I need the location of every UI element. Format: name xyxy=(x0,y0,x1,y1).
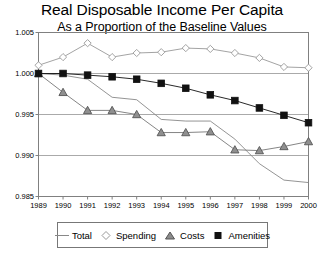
data-point xyxy=(305,119,312,126)
data-point xyxy=(207,45,214,52)
x-axis-tick-label: 1996 xyxy=(197,201,223,210)
data-point xyxy=(256,105,263,112)
data-point xyxy=(59,88,67,95)
plot-frame xyxy=(36,33,309,200)
data-point xyxy=(84,40,91,47)
data-point xyxy=(108,106,116,113)
x-axis-tick-label: 1992 xyxy=(99,201,125,210)
data-point xyxy=(157,128,165,135)
series-line xyxy=(39,74,309,183)
x-axis-tick-label: 1994 xyxy=(148,201,174,210)
series-line xyxy=(39,74,309,123)
legend-item-total[interactable]: Total xyxy=(55,230,92,241)
x-axis-tick-label: 1998 xyxy=(246,201,272,210)
x-axis-tick-label: 1991 xyxy=(75,201,101,210)
data-point xyxy=(206,128,214,135)
data-point xyxy=(83,106,91,113)
x-axis-tick-label: 1990 xyxy=(50,201,76,210)
x-axis-tick-label: 1995 xyxy=(173,201,199,210)
series-amenities xyxy=(35,70,312,126)
x-axis-tick-label: 1997 xyxy=(222,201,248,210)
data-point xyxy=(207,92,214,99)
data-point xyxy=(256,54,263,61)
series-total xyxy=(39,74,309,183)
legend-item-spending[interactable]: Spending xyxy=(99,230,156,241)
data-point xyxy=(232,97,239,104)
data-point xyxy=(133,76,140,83)
legend-label-spending: Spending xyxy=(116,230,156,241)
series-line xyxy=(39,43,309,68)
data-point xyxy=(305,64,312,71)
legend-item-costs[interactable]: Costs xyxy=(163,230,204,241)
plot-area xyxy=(0,0,324,260)
y-axis-tick-label: 0.995 xyxy=(2,110,34,119)
y-axis-tick-label: 1.005 xyxy=(2,28,34,37)
chart-legend: Total Spending Costs Amenities xyxy=(57,222,268,248)
x-axis-tick-label: 2000 xyxy=(296,201,322,210)
data-point xyxy=(281,112,288,119)
diamond-marker-icon xyxy=(99,230,113,241)
y-axis-tick-label: 0.990 xyxy=(2,151,34,160)
data-point xyxy=(182,44,189,51)
series-layer xyxy=(34,40,312,183)
y-axis-tick-label: 1.000 xyxy=(2,69,34,78)
data-point xyxy=(59,54,66,61)
data-point xyxy=(133,49,140,56)
data-point xyxy=(280,63,287,70)
data-point xyxy=(231,49,238,56)
data-point xyxy=(35,70,42,77)
triangle-marker-icon xyxy=(163,230,177,241)
chart-container: Real Disposable Income Per Capita As a P… xyxy=(0,0,324,260)
x-axis-tick-label: 1993 xyxy=(124,201,150,210)
data-point xyxy=(182,85,189,92)
data-point xyxy=(158,80,165,87)
series-line xyxy=(39,74,309,151)
y-axis-tick-label: 0.985 xyxy=(2,192,34,201)
data-point xyxy=(304,137,312,144)
data-point xyxy=(109,73,116,80)
legend-label-costs: Costs xyxy=(180,230,204,241)
series-spending xyxy=(35,40,312,72)
data-point xyxy=(60,70,67,77)
legend-item-amenities[interactable]: Amenities xyxy=(211,230,270,241)
data-point xyxy=(231,146,239,153)
legend-label-amenities: Amenities xyxy=(228,230,270,241)
line-swatch-icon xyxy=(55,230,69,241)
data-point xyxy=(35,62,42,69)
square-marker-icon xyxy=(211,230,225,241)
x-axis-tick-label: 1989 xyxy=(26,201,52,210)
data-point xyxy=(84,72,91,79)
data-point xyxy=(109,54,116,61)
x-axis-tick-label: 1999 xyxy=(271,201,297,210)
legend-label-total: Total xyxy=(72,230,92,241)
data-point xyxy=(158,49,165,56)
